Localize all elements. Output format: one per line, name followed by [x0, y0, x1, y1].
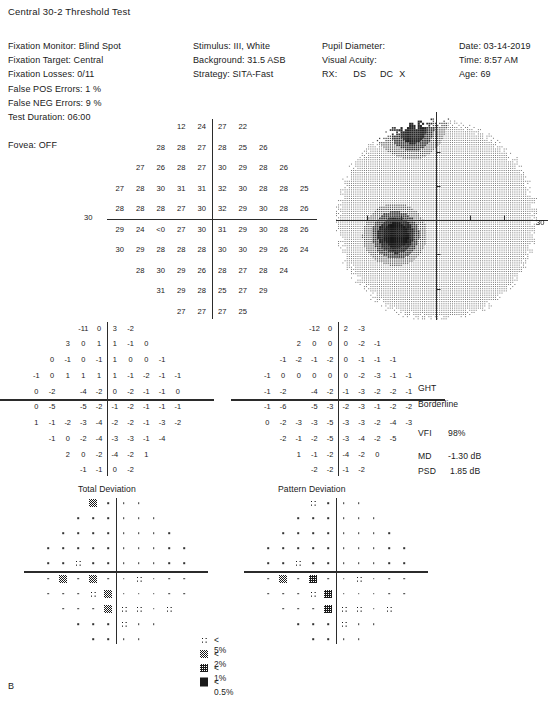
- probability-symbol-normal: [93, 608, 95, 610]
- field-value-cell: 27: [172, 204, 190, 213]
- field-value-cell: -3: [353, 324, 371, 333]
- probability-symbol-normal: [168, 548, 170, 550]
- page-title: Central 30-2 Threshold Test: [8, 6, 130, 17]
- probability-symbol-normal: [138, 517, 140, 519]
- probability-symbol-normal: [358, 563, 360, 565]
- probability-symbol-normal: [358, 593, 360, 595]
- pattern-deviation-probability-plot: [244, 498, 434, 648]
- field-value-cell: -2: [274, 387, 292, 396]
- field-value-cell: 30: [213, 163, 231, 172]
- probability-symbol-p5: [201, 637, 208, 644]
- probability-symbol-normal: [108, 578, 110, 580]
- probability-symbol-normal: [358, 623, 360, 625]
- probability-symbol-normal: [93, 563, 95, 565]
- field-value-cell: 26: [152, 163, 170, 172]
- probability-symbol-p05: [200, 678, 208, 687]
- probability-symbol-normal: [373, 548, 375, 550]
- probability-symbol-normal: [373, 517, 375, 519]
- probability-symbol-normal: [388, 532, 390, 534]
- probability-symbol-normal: [153, 608, 155, 610]
- probability-symbol-normal: [138, 563, 140, 565]
- field-value-cell: -2: [400, 402, 418, 411]
- probability-symbol-normal: [47, 578, 49, 580]
- probability-symbol-normal: [313, 548, 315, 550]
- field-value-cell: 28: [254, 163, 272, 172]
- field-value-cell: 27: [111, 184, 129, 193]
- probability-symbol-p5: [135, 575, 142, 582]
- probability-symbol-normal: [183, 578, 185, 580]
- field-value-cell: 27: [131, 163, 149, 172]
- probability-symbol-normal: [358, 517, 360, 519]
- probability-symbol-p5: [120, 605, 127, 612]
- grayscale-map: [336, 112, 548, 320]
- probability-symbol-normal: [93, 517, 95, 519]
- probability-symbol-normal: [388, 593, 390, 595]
- field-value-cell: -5: [384, 434, 402, 443]
- probability-symbol-normal: [153, 532, 155, 534]
- rx-dc-label: DC: [380, 67, 393, 81]
- probability-symbol-normal: [403, 563, 405, 565]
- field-value-cell: 30: [213, 245, 231, 254]
- probability-symbol-normal: [343, 517, 345, 519]
- probability-symbol-normal: [47, 593, 49, 595]
- probability-symbol-p1: [324, 590, 332, 598]
- probability-symbol-normal: [267, 593, 269, 595]
- probability-symbol-normal: [343, 563, 345, 565]
- probability-symbol-normal: [313, 623, 315, 625]
- field-value-cell: 27: [193, 143, 211, 152]
- probability-symbol-normal: [153, 563, 155, 565]
- probability-symbol-normal: [328, 578, 330, 580]
- field-value-cell: -1: [400, 387, 418, 396]
- probability-symbol-normal: [123, 502, 125, 504]
- field-value-cell: 29: [111, 225, 129, 234]
- probability-symbol-normal: [297, 548, 299, 550]
- probability-symbol-normal: [123, 563, 125, 565]
- probability-symbol-normal: [282, 608, 284, 610]
- ght-value: Borderline: [418, 399, 458, 409]
- probability-symbol-normal: [403, 578, 405, 580]
- rx-ds-label: DS: [353, 67, 366, 81]
- probability-symbol-normal: [282, 532, 284, 534]
- probability-symbol-p5: [165, 605, 172, 612]
- header-line: Background: 31.5 ASB: [193, 53, 286, 67]
- probability-symbol-normal: [373, 623, 375, 625]
- field-value-cell: 27: [193, 163, 211, 172]
- probability-symbol-normal: [108, 517, 110, 519]
- probability-symbol-normal: [343, 532, 345, 534]
- field-value-cell: -1: [153, 355, 171, 364]
- rx-label: RX:: [322, 67, 337, 81]
- probability-symbol-normal: [373, 563, 375, 565]
- probability-symbol-normal: [358, 502, 360, 504]
- probability-symbol-p5: [75, 560, 82, 567]
- field-value-cell: 28: [275, 204, 293, 213]
- horizontal-meridian-axis: [231, 399, 445, 401]
- probability-symbol-normal: [153, 548, 155, 550]
- field-value-cell: 29: [234, 163, 252, 172]
- field-value-cell: 28: [275, 184, 293, 193]
- probability-symbol-p5: [90, 590, 97, 597]
- field-value-cell: 24: [193, 122, 211, 131]
- probability-symbol-normal: [93, 623, 95, 625]
- probability-symbol-normal: [328, 623, 330, 625]
- field-value-cell: 29: [172, 286, 190, 295]
- field-value-cell: 30: [193, 204, 211, 213]
- field-value-cell: 25: [295, 184, 313, 193]
- field-value-cell: 28: [193, 245, 211, 254]
- field-value-cell: 26: [275, 245, 293, 254]
- field-value-cell: 28: [254, 184, 272, 193]
- field-value-cell: -2: [122, 465, 140, 474]
- probability-symbol-p5: [355, 605, 362, 612]
- probability-symbol-p1: [200, 664, 208, 672]
- probability-symbol-p5: [120, 620, 127, 627]
- header-line: Age: 69: [459, 67, 531, 81]
- total-deviation-probability-plot: [24, 498, 214, 648]
- field-value-cell: 25: [234, 143, 252, 152]
- probability-symbol-normal: [138, 593, 140, 595]
- visual-acuity-label: Visual Acuity:: [322, 53, 405, 67]
- probability-symbol-normal: [388, 563, 390, 565]
- field-value-cell: -5: [43, 402, 61, 411]
- probability-symbol-normal: [343, 593, 345, 595]
- probability-symbol-normal: [77, 608, 79, 610]
- grayscale-canvas: [336, 112, 548, 320]
- md-value: -1.30 dB: [448, 451, 481, 461]
